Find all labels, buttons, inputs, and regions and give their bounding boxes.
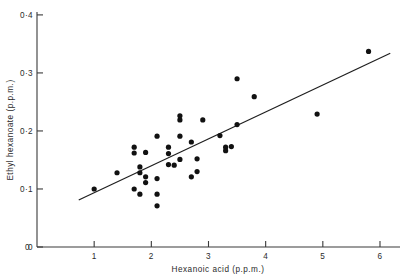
data-point [252, 94, 257, 99]
x-axis-ticks [94, 241, 380, 247]
data-point [189, 139, 194, 144]
data-point [177, 134, 182, 139]
data-point [154, 176, 159, 181]
data-point [114, 170, 119, 175]
data-point [166, 145, 171, 150]
x-tick-label-1: 2 [149, 252, 154, 261]
data-point [166, 151, 171, 156]
data-point [189, 174, 194, 179]
data-point [92, 186, 97, 191]
x-tick-label-5: 6 [378, 252, 383, 261]
data-point [177, 157, 182, 162]
plot-canvas: 00·10·20·30·4 1234560 Hexanoic acid (p.p… [0, 0, 406, 278]
data-point [137, 192, 142, 197]
data-point [194, 156, 199, 161]
data-point [315, 112, 320, 117]
data-point [200, 117, 205, 122]
data-point [177, 117, 182, 122]
data-point [154, 203, 159, 208]
data-point [223, 148, 228, 153]
data-point [172, 163, 177, 168]
data-point [217, 133, 222, 138]
data-point [154, 192, 159, 197]
x-tick-label-3: 4 [263, 252, 268, 261]
data-point [143, 150, 148, 155]
y-axis-tick-labels: 00·10·20·30·4 [20, 11, 33, 252]
x-origin-label: 0 [25, 243, 30, 252]
x-tick-label-0: 1 [92, 252, 97, 261]
scatter-plot-figure: 00·10·20·30·4 1234560 Hexanoic acid (p.p… [0, 0, 406, 278]
axes [37, 12, 400, 247]
regression-line [79, 53, 391, 200]
data-point [166, 162, 171, 167]
data-point [132, 145, 137, 150]
y-tick-label-1: 0·1 [20, 185, 33, 194]
y-axis-title: Ethyl hexanoate (p.p.m.) [6, 79, 15, 180]
y-tick-label-2: 0·2 [20, 127, 33, 136]
y-tick-label-4: 0·4 [20, 11, 33, 20]
x-axis-title: Hexanoic acid (p.p.m.) [172, 265, 265, 274]
x-tick-label-4: 5 [320, 252, 325, 261]
data-point [132, 150, 137, 155]
data-point [366, 49, 371, 54]
data-point [143, 180, 148, 185]
data-point [143, 174, 148, 179]
data-point [154, 134, 159, 139]
data-point [194, 169, 199, 174]
data-point [234, 122, 239, 127]
y-axis-ticks [37, 15, 43, 247]
data-point [132, 186, 137, 191]
data-point [229, 144, 234, 149]
data-point [137, 170, 142, 175]
y-tick-label-3: 0·3 [20, 69, 33, 78]
x-tick-label-2: 3 [206, 252, 211, 261]
data-point [137, 164, 142, 169]
data-point [234, 76, 239, 81]
regression-line-path [79, 53, 391, 200]
x-axis-tick-labels: 1234560 [25, 243, 382, 261]
